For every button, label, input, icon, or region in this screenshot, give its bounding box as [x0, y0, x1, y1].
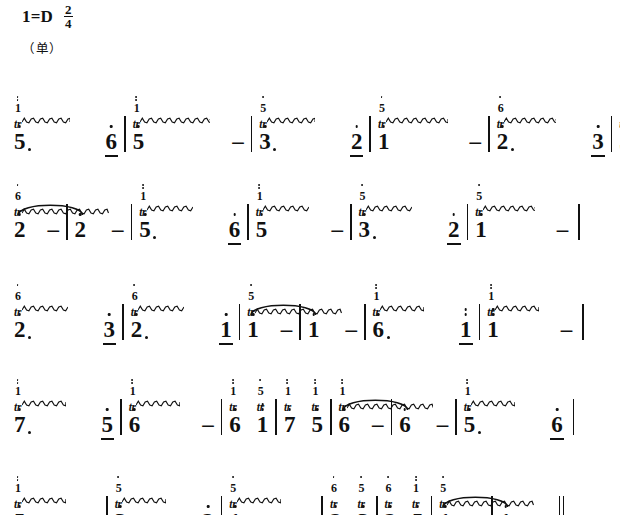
- note-number-group: –: [372, 413, 384, 436]
- note: 6tr2: [14, 149, 26, 242]
- sustain-dash: –: [303, 441, 315, 515]
- sustain-dash-glyph: –: [537, 510, 549, 515]
- grace-note-number: 5: [258, 384, 264, 398]
- note-number-group: 2: [202, 510, 214, 515]
- note-number-group: 5: [14, 510, 26, 515]
- trill-mark: tr: [229, 496, 281, 510]
- octave-dots: [417, 505, 420, 510]
- note: 5tr1: [257, 344, 269, 437]
- note-number-group: –: [557, 218, 569, 241]
- octave-dots: [360, 476, 362, 479]
- note-number-group: 1: [500, 510, 512, 515]
- octave-dots: [137, 125, 140, 130]
- sustain-dash: –: [437, 344, 449, 437]
- note-number: 1: [308, 318, 320, 341]
- note: 5tr1: [475, 149, 535, 242]
- grace-note: 1: [14, 385, 21, 398]
- note: 6tr2: [131, 249, 185, 342]
- trill-wavy-line: [136, 400, 180, 407]
- note: 5tr1: [378, 61, 448, 154]
- note-number-group: 3: [358, 510, 370, 515]
- grace-note-number: 5: [360, 189, 366, 203]
- note: 1tr5: [133, 61, 211, 154]
- note-number-group: 3: [115, 510, 132, 515]
- note-number: 5: [464, 413, 476, 436]
- octave-dots: [250, 284, 252, 287]
- measure: 6tr25tr3: [330, 442, 369, 515]
- grace-note-number: 1: [15, 481, 21, 495]
- octave-dots: [556, 408, 559, 413]
- barline: [582, 304, 584, 340]
- measure: 1tr5 –: [133, 62, 244, 154]
- note-number-group: 2: [330, 510, 342, 515]
- grace-note: 6: [14, 290, 21, 303]
- grace-note: 5: [229, 482, 236, 495]
- note-number: 3: [115, 510, 127, 515]
- note: 5tr3: [359, 149, 413, 242]
- staff-row: 1tr5 –5tr3 25tr1 –6tr25tr36tr21tr55tr1 –…: [0, 442, 620, 515]
- octave-dots: [117, 476, 119, 479]
- octave-dots: [110, 125, 113, 130]
- augmentation-dot: [145, 336, 148, 339]
- note: 5tr1: [247, 249, 259, 342]
- measure: 5tr1 –: [247, 250, 292, 342]
- octave-dots: [288, 408, 291, 413]
- note-number: 6: [229, 413, 241, 436]
- octave-dots: [286, 379, 288, 386]
- measure: 2 –: [75, 150, 124, 242]
- trill-mark: tr: [256, 204, 310, 218]
- measure: 5tr1 –: [439, 442, 484, 515]
- note-number-group: 5: [102, 413, 114, 436]
- octave-dots: [258, 184, 260, 191]
- note-number: 1: [247, 318, 259, 341]
- sustain-dash-glyph: –: [437, 413, 449, 436]
- note-number-group: 2: [14, 218, 26, 241]
- octave-dots: [478, 184, 480, 187]
- staff-row: 1tr5 61tr5 –5tr3 25tr1 –6tr2 31tr5 3: [0, 62, 620, 154]
- measure: 1tr5 6: [14, 62, 117, 154]
- measure: 5tr1 –: [378, 62, 481, 154]
- grace-note: 5: [247, 290, 254, 303]
- sustain-dash-glyph: –: [48, 218, 60, 241]
- measure: 1 –: [308, 250, 357, 342]
- measure: 1tr5 –: [256, 150, 343, 242]
- measure: 5tr3 2: [359, 150, 460, 242]
- octave-dots: [260, 213, 263, 218]
- grace-note: 5: [358, 482, 365, 495]
- octave-dots: [232, 379, 234, 386]
- octave-dots: [468, 408, 471, 413]
- note-number-group: –: [48, 218, 60, 241]
- note-number-group: 2: [131, 318, 148, 341]
- grace-note-number: 6: [331, 481, 337, 495]
- octave-dots: [17, 184, 19, 187]
- note-number: 2: [385, 510, 397, 515]
- sustain-dash-glyph: –: [88, 510, 100, 515]
- note-number: 6: [373, 318, 385, 341]
- note-number-group: 1: [220, 318, 232, 341]
- octave-dots: [597, 125, 600, 130]
- sustain-dash-glyph: –: [331, 218, 343, 241]
- octave-dots: [361, 184, 363, 187]
- note-number-group: 2: [75, 218, 87, 241]
- grace-note: 6: [14, 190, 21, 203]
- octave-dots: [334, 505, 337, 510]
- octave-dots: [234, 408, 237, 413]
- octave-dots: [135, 313, 138, 318]
- octave-dots: [492, 308, 495, 318]
- grace-note: 6: [131, 290, 138, 303]
- sustain-dash-glyph: –: [345, 318, 357, 341]
- note-number-group: –: [537, 510, 549, 515]
- grace-note-number: 1: [15, 384, 21, 398]
- octave-dots: [444, 505, 447, 510]
- octave-dots: [375, 284, 377, 291]
- note-number-group: 1: [257, 413, 269, 436]
- note-number-group: –: [281, 318, 293, 341]
- barline: [122, 304, 124, 340]
- measure-container: 1tr5 61tr5 –5tr3 25tr1 –6tr2 31tr5 3: [0, 62, 620, 154]
- barline: [578, 204, 580, 240]
- octave-dots: [18, 125, 21, 130]
- note: 2: [448, 149, 460, 242]
- barline: [479, 304, 481, 340]
- octave-dots: [252, 313, 255, 318]
- measure: 1tr5 –: [14, 442, 99, 515]
